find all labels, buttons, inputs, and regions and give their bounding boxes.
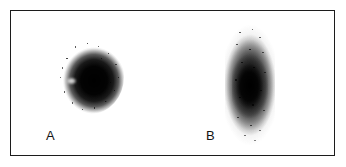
blob-b-grain-texture <box>225 22 275 148</box>
figure-root: A B <box>0 0 346 167</box>
blob-band-b <box>225 22 275 148</box>
blob-a-pale-void <box>67 78 76 85</box>
blob-b-dense-band <box>232 50 268 121</box>
figure-frame-border: A B <box>10 10 335 156</box>
panel-label-b: B <box>206 129 215 142</box>
blob-a-grain-texture <box>54 36 126 116</box>
blob-spot-a <box>56 38 124 114</box>
blob-a-core <box>56 38 124 114</box>
blob-b-core <box>225 22 275 148</box>
panel-label-a: A <box>46 129 55 142</box>
